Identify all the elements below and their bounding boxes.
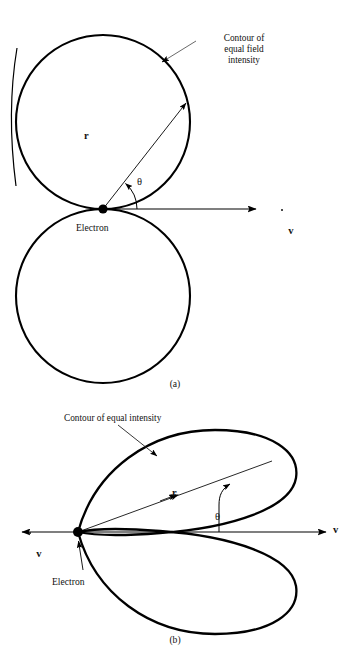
lower-dipole-lobe: [16, 209, 190, 383]
electron-label-b: Electron: [52, 576, 85, 587]
panel-a-graphics: [12, 35, 256, 383]
acceleration-dot-accent-b: [29, 532, 31, 534]
acceleration-label-b-glyph: v: [21, 536, 42, 572]
electron-label-a: Electron: [76, 222, 109, 233]
annotation-leader-a: [162, 41, 196, 62]
radius-label-a: r: [84, 130, 89, 142]
contour-annotation-b: Contour of equal intensity: [64, 413, 254, 424]
upper-beamed-lobe: [78, 430, 296, 535]
velocity-label-a-text: v: [288, 225, 293, 236]
figure-container: Contour of equal field intensity r θ v E…: [0, 0, 355, 658]
caption-a: (a): [155, 378, 195, 389]
theta-label-a: θ: [137, 176, 142, 188]
velocity-label-b: v: [333, 524, 338, 536]
velocity-label-a-glyph: v: [273, 213, 294, 249]
acceleration-label-b: v: [10, 524, 42, 584]
velocity-label-a: v: [262, 201, 294, 261]
radius-label-b: r: [172, 487, 177, 499]
radius-vector-a: [103, 103, 186, 209]
contour-annotation-a-text: Contour of equal field intensity: [198, 33, 290, 65]
electron-point-b: [73, 527, 83, 537]
acceleration-label-b-text: v: [36, 548, 41, 559]
velocity-dot-accent-a: [281, 209, 283, 211]
electron-point-a: [98, 204, 107, 213]
caption-b: (b): [155, 634, 195, 645]
theta-label-b: θ: [215, 511, 220, 523]
panel-b-graphics: [22, 425, 326, 634]
lower-beamed-lobe: [78, 529, 296, 634]
radiation-pattern-diagram: [0, 0, 355, 658]
contour-annotation-a: Contour of equal field intensity: [198, 12, 290, 87]
